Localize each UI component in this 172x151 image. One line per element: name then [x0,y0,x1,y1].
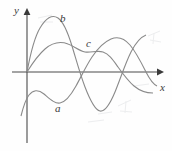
y-axis-arrowhead [24,8,31,15]
trigonometric-curves-figure: y x a b c [0,0,172,151]
curve-label-c: c [86,38,91,49]
curve-b [27,16,146,111]
y-axis-label: y [14,5,19,16]
curve-label-a: a [55,103,61,114]
curve-a [21,38,157,116]
plot-canvas [0,0,172,151]
x-axis-label: x [160,82,165,93]
x-axis-arrowhead [157,69,164,76]
curve-label-b: b [60,13,66,24]
y-axis [24,8,31,143]
x-axis [12,69,164,76]
